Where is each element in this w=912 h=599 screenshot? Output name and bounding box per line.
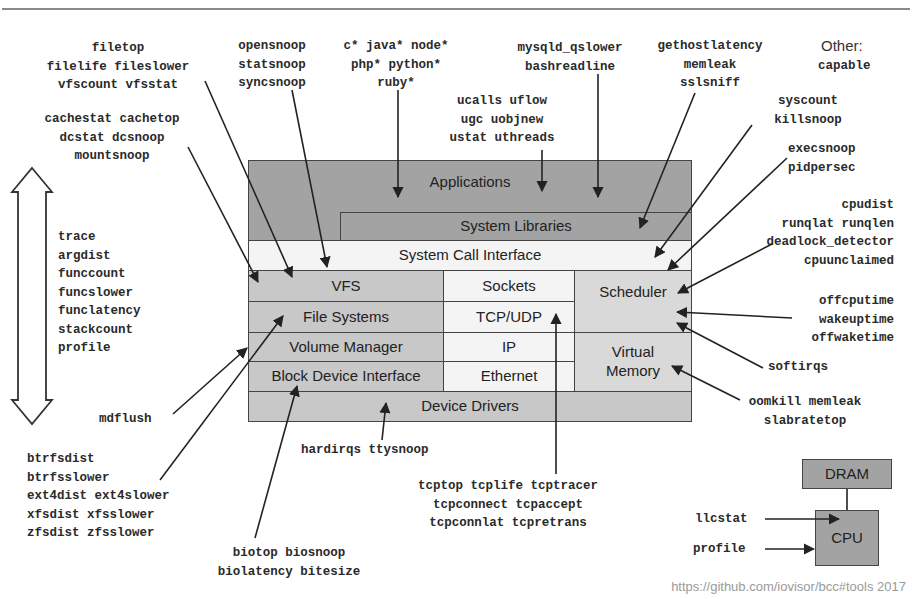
tools-opensnoop: opensnoop statsnoop syncsnoop — [222, 37, 322, 93]
tools-oomkill: oomkill memleak slabratetop — [735, 393, 875, 430]
other-label: Other: — [821, 37, 863, 54]
tools-llcstat: llcstat — [695, 510, 748, 529]
tools-gethost: gethostlatency memleak sslsniff — [650, 37, 770, 93]
tools-profile-cpu: profile — [693, 540, 746, 559]
tools-languages: c* java* node* php* python* ruby* — [326, 37, 466, 93]
tools-tcp: tcptop tcplife tcptracer tcpconnect tcpa… — [390, 477, 626, 533]
tools-other: capable — [818, 57, 871, 76]
tools-mdflush: mdflush — [99, 410, 152, 429]
tools-mysqld: mysqld_qslower bashreadline — [500, 39, 640, 76]
tools-vfs-file: filetop filelife fileslower vfscount vfs… — [28, 39, 208, 95]
tools-hardirqs: hardirqs ttysnoop — [301, 441, 429, 460]
tools-ucalls: ucalls uflow ugc uobjnew ustat uthreads — [432, 92, 572, 148]
tools-bio: biotop biosnoop biolatency bitesize — [196, 544, 382, 581]
tools-multi: trace argdist funccount funcslower funcl… — [58, 228, 141, 358]
tools-execsnoop: execsnoop pidpersec — [788, 140, 856, 177]
source-url: https://github.com/iovisor/bcc#tools 201… — [671, 579, 906, 594]
tools-offcpu: offcputime wakeuptime offwaketime — [760, 292, 894, 348]
tools-syscount: syscount killsnoop — [758, 92, 858, 129]
tools-cache: cachestat cachetop dcstat dcsnoop mounts… — [22, 110, 202, 166]
tools-softirqs: softirqs — [768, 358, 828, 377]
tools-fs: btrfsdist btrfsslower ext4dist ext4slowe… — [27, 450, 170, 543]
tools-cpudist: cpudist runqlat runqlen deadlock_detecto… — [720, 196, 894, 270]
